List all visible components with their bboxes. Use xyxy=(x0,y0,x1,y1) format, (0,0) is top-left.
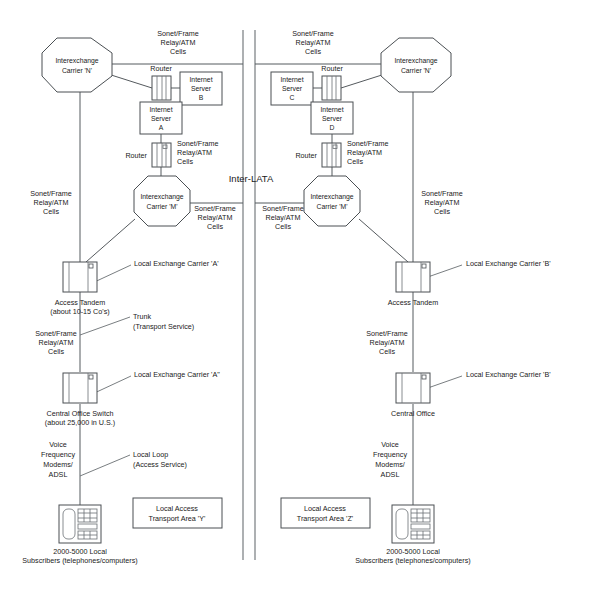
access-tandem-left-line-2: (about 10-15 Co's) xyxy=(50,307,109,316)
node-iec-n-left[interactable]: Interexchange Carrier 'N' xyxy=(42,38,112,92)
label-sonet-router-right: Sonet/Frame Relay/ATM Cells xyxy=(347,139,389,166)
svg-text:Sonet/Frame: Sonet/Frame xyxy=(421,189,463,198)
svg-text:Voice: Voice xyxy=(381,440,399,449)
label-sonet-far-left: Sonet/Frame Relay/ATM Cells xyxy=(30,189,72,216)
lata-box-y: Local Access Transport Area 'Y' xyxy=(133,498,222,528)
telephone-right-line-2: Subscribers (telephones/computers) xyxy=(355,556,470,565)
iec-n-right-label-1: Interexchange xyxy=(394,57,437,65)
label-voice-left: Voice Frequency Modems/ ADSL xyxy=(41,440,75,479)
iec-m-left-label-2: Carrier 'M' xyxy=(147,203,178,210)
server-a-line-2: Server xyxy=(151,115,172,122)
node-internet-server-a[interactable]: Internet Server A xyxy=(140,102,182,134)
svg-text:Cells: Cells xyxy=(177,157,193,166)
svg-text:Relay/ATM: Relay/ATM xyxy=(265,213,300,222)
network-topology-diagram: Interexchange Carrier 'N' Interexchange … xyxy=(0,0,589,590)
network-diagram-canvas: Interexchange Carrier 'N' Interexchange … xyxy=(0,0,589,590)
svg-text:Frequency: Frequency xyxy=(373,450,407,459)
router-mid-right-label: Router xyxy=(295,151,317,160)
svg-text:Sonet/Frame: Sonet/Frame xyxy=(194,204,236,213)
svg-text:Relay/ATM: Relay/ATM xyxy=(33,198,68,207)
central-office-left-line-1: Central Office Switch xyxy=(47,409,114,418)
node-central-office-right[interactable]: Central Office xyxy=(391,373,435,418)
iec-n-left-label-1: Interexchange xyxy=(55,57,98,65)
iec-n-left-label-2: Carrier 'N' xyxy=(62,67,92,74)
svg-text:Sonet/Frame: Sonet/Frame xyxy=(366,329,408,338)
callout-local-loop: Local Loop (Access Service) xyxy=(133,450,187,469)
server-b-line-1: Internet xyxy=(189,76,212,83)
node-iec-m-left[interactable]: Interexchange Carrier 'M' xyxy=(134,176,190,226)
label-sonet-top-left: Sonet/Frame Relay/ATM Cells xyxy=(157,29,199,56)
node-access-tandem-left[interactable]: Access Tandem (about 10-15 Co's) xyxy=(50,262,109,316)
svg-text:(Access Service): (Access Service) xyxy=(133,460,187,469)
svg-text:Voice: Voice xyxy=(49,440,67,449)
label-sonet-router-left: Sonet/Frame Relay/ATM Cells xyxy=(177,139,219,166)
svg-text:ADSL: ADSL xyxy=(381,470,400,479)
server-d-line-1: Internet xyxy=(320,106,343,113)
svg-text:Sonet/Frame: Sonet/Frame xyxy=(35,329,77,338)
svg-text:Sonet/Frame: Sonet/Frame xyxy=(262,204,304,213)
svg-text:Relay/ATM: Relay/ATM xyxy=(369,338,404,347)
svg-text:Local Loop: Local Loop xyxy=(133,450,168,459)
router-mid-left-icon[interactable]: Router xyxy=(125,143,171,167)
iec-m-left-label-1: Interexchange xyxy=(140,193,183,201)
central-office-right-line-1: Central Office xyxy=(391,409,435,418)
server-c-line-3: C xyxy=(290,94,295,101)
iec-n-right-label-2: Carrier 'N' xyxy=(401,67,431,74)
svg-text:Cells: Cells xyxy=(43,207,59,216)
svg-text:Modems/: Modems/ xyxy=(375,460,405,469)
lata-y-line-1: Local Access xyxy=(156,504,198,513)
svg-text:Cells: Cells xyxy=(207,222,223,231)
telephone-right-line-1: 2000-5000 Local xyxy=(386,547,440,556)
svg-text:Cells: Cells xyxy=(305,47,321,56)
svg-text:Cells: Cells xyxy=(434,207,450,216)
svg-text:Relay/ATM: Relay/ATM xyxy=(160,38,195,47)
node-access-tandem-right[interactable]: Access Tandem xyxy=(388,262,439,307)
svg-text:Relay/ATM: Relay/ATM xyxy=(38,338,73,347)
server-d-line-3: D xyxy=(330,124,335,131)
node-internet-server-b[interactable]: Internet Server B xyxy=(180,72,222,105)
svg-text:Trunk: Trunk xyxy=(133,312,152,321)
label-sonet-trunk-left: Sonet/Frame Relay/ATM Cells xyxy=(35,329,77,356)
node-iec-n-right[interactable]: Interexchange Carrier 'N' xyxy=(381,38,451,92)
router-top-left-icon[interactable]: Router xyxy=(150,64,172,100)
callout-lec-a-tandem: Local Exchange Carrier 'A' xyxy=(134,259,219,268)
telephone-left-line-2: Subscribers (telephones/computers) xyxy=(22,556,137,565)
label-sonet-top-right: Sonet/Frame Relay/ATM Cells xyxy=(292,29,334,56)
lata-y-line-2: Transport Area 'Y' xyxy=(149,514,206,523)
router-mid-right-icon[interactable]: Router xyxy=(295,143,341,167)
router-mid-left-label: Router xyxy=(125,151,147,160)
svg-text:Cells: Cells xyxy=(48,347,64,356)
node-iec-m-right[interactable]: Interexchange Carrier 'M' xyxy=(304,176,360,226)
svg-text:Cells: Cells xyxy=(275,222,291,231)
callout-lec-a-co: Local Exchange Carrier 'A" xyxy=(134,370,220,379)
iec-m-right-label-2: Carrier 'M' xyxy=(317,203,348,210)
svg-text:(Transport Service): (Transport Service) xyxy=(133,322,194,331)
svg-text:Relay/ATM: Relay/ATM xyxy=(177,148,212,157)
svg-text:Modems/: Modems/ xyxy=(43,460,73,469)
node-internet-server-c[interactable]: Internet Server C xyxy=(271,72,313,105)
svg-text:Sonet/Frame: Sonet/Frame xyxy=(292,29,334,38)
telephone-left-line-1: 2000-5000 Local xyxy=(53,547,107,556)
server-a-line-1: Internet xyxy=(149,106,172,113)
iec-m-right-label-1: Interexchange xyxy=(310,193,353,201)
server-b-line-3: B xyxy=(199,94,204,101)
callout-trunk: Trunk (Transport Service) xyxy=(133,312,194,331)
server-d-line-2: Server xyxy=(322,115,343,122)
svg-text:Relay/ATM: Relay/ATM xyxy=(424,198,459,207)
access-tandem-right-line-1: Access Tandem xyxy=(388,298,439,307)
node-telephone-left[interactable]: 2000-5000 Local Subscribers (telephones/… xyxy=(22,505,137,565)
label-sonet-far-right: Sonet/Frame Relay/ATM Cells xyxy=(421,189,463,216)
router-top-right-icon[interactable]: Router xyxy=(321,64,343,100)
node-internet-server-d[interactable]: Internet Server D xyxy=(311,102,353,134)
node-telephone-right[interactable]: 2000-5000 Local Subscribers (telephones/… xyxy=(355,505,470,565)
label-sonet-mid-left: Sonet/Frame Relay/ATM Cells xyxy=(194,204,236,231)
server-b-line-2: Server xyxy=(191,85,212,92)
svg-text:Sonet/Frame: Sonet/Frame xyxy=(177,139,219,148)
access-tandem-left-line-1: Access Tandem xyxy=(55,298,106,307)
callout-lec-b-tandem: Local Exchange Carrier 'B' xyxy=(466,259,551,268)
server-c-line-1: Internet xyxy=(280,76,303,83)
svg-text:Sonet/Frame: Sonet/Frame xyxy=(347,139,389,148)
svg-text:Relay/ATM: Relay/ATM xyxy=(197,213,232,222)
server-c-line-2: Server xyxy=(282,85,303,92)
node-central-office-left[interactable]: Central Office Switch (about 25,000 in U… xyxy=(45,373,115,427)
